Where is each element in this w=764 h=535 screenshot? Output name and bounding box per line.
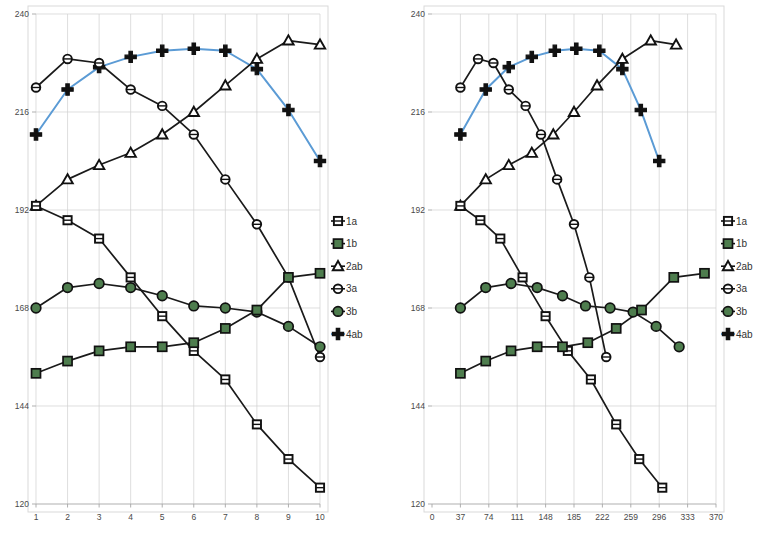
x-axis-tick-label: 8 [255,512,260,522]
marker-1b [221,324,230,333]
legend-item-2ab[interactable]: 2ab [721,261,753,272]
legend-item-3b[interactable]: 3b [721,306,748,317]
x-axis-tick-label: 1 [34,512,39,522]
legend-label-2ab: 2ab [346,261,363,272]
marker-3b [674,342,684,352]
legend-item-3a[interactable]: 3a [721,283,748,294]
y-axis-tick-label: 192 [15,205,29,215]
x-axis-tick-label: 185 [567,512,581,522]
x-axis-tick-label: 3 [97,512,102,522]
left-chart-svg: 120144168192216240123456789101a1b2ab3a3b… [0,0,382,535]
marker-1b [316,269,325,278]
marker-1b [612,324,621,333]
x-axis-tick-label: 333 [681,512,695,522]
right-chart-svg: 1201441681922162400377411114818522225929… [382,0,764,535]
x-axis-tick-label: 148 [539,512,553,522]
marker-3b [456,303,466,313]
marker-1b [669,273,678,282]
marker-3b [31,303,41,313]
marker-3b [189,301,199,311]
marker-3b [126,283,136,293]
marker-3b [63,283,73,293]
marker-1b [63,357,72,366]
marker-3b [481,283,491,293]
legend-item-1b[interactable]: 1b [721,238,748,249]
marker-1b [558,342,567,351]
y-axis-tick-label: 144 [15,401,29,411]
legend-item-1b[interactable]: 1b [331,238,358,249]
marker-1b [481,357,490,366]
legend-item-1a[interactable]: 1a [721,216,748,227]
y-axis-tick-label: 120 [15,499,29,509]
y-axis-tick-label: 192 [411,205,425,215]
left-chart-panel: 120144168192216240123456789101a1b2ab3a3b… [0,0,382,535]
legend-label-1b: 1b [346,238,358,249]
legend: 1a1b2ab3a3b4ab [331,216,363,340]
marker-3b [558,291,568,301]
marker-3b [605,303,615,313]
x-axis-tick-label: 222 [595,512,609,522]
marker-1b [32,369,41,378]
y-axis-tick-label: 168 [15,303,29,313]
y-axis-tick-label: 240 [15,9,29,19]
x-axis-tick-label: 370 [709,512,723,522]
x-axis-tick-label: 74 [484,512,494,522]
marker-1b [252,306,261,315]
legend-item-3b[interactable]: 3b [331,306,358,317]
marker-3b [157,291,167,301]
legend-label-3a: 3a [736,283,748,294]
legend-label-2ab: 2ab [736,261,753,272]
legend: 1a1b2ab3a3b4ab [721,216,753,340]
right-chart-panel: 1201441681922162400377411114818522225929… [382,0,764,535]
marker-1b [583,338,592,347]
x-axis-tick-label: 0 [430,512,435,522]
legend-label-1a: 1a [346,216,358,227]
x-axis-tick-label: 111 [511,512,524,522]
x-axis-tick-label: 2 [65,512,70,522]
y-axis-tick-label: 216 [411,107,425,117]
legend-label-3a: 3a [346,283,358,294]
marker-1b [637,306,646,315]
y-axis-tick-label: 120 [411,499,425,509]
marker-1b [95,346,104,355]
marker-1b [533,342,542,351]
chart-frame [28,6,328,512]
legend-item-4ab[interactable]: 4ab [331,328,363,339]
marker-legend-4ab [332,328,343,339]
marker-3b [94,279,104,289]
legend-item-3a[interactable]: 3a [331,283,358,294]
x-axis-tick-label: 4 [128,512,133,522]
y-axis-tick-label: 216 [15,107,29,117]
marker-legend-3b [333,307,343,317]
marker-3b [315,342,325,352]
marker-1b [189,338,198,347]
x-axis-tick-label: 6 [191,512,196,522]
marker-3b [532,283,542,293]
marker-legend-1b [334,239,343,248]
legend-label-3b: 3b [346,306,358,317]
legend-label-1b: 1b [736,238,748,249]
legend-label-4ab: 4ab [346,329,363,340]
x-axis-tick-label: 37 [456,512,466,522]
marker-3b [581,301,591,311]
figure-container: 120144168192216240123456789101a1b2ab3a3b… [0,0,764,535]
marker-legend-3b [723,307,733,317]
x-axis-tick-label: 259 [624,512,638,522]
legend-item-1a[interactable]: 1a [331,216,358,227]
marker-3b [284,322,294,332]
marker-1b [126,342,135,351]
marker-1b [456,369,465,378]
marker-3b [506,279,516,289]
x-axis-tick-label: 5 [160,512,165,522]
legend-item-2ab[interactable]: 2ab [331,261,363,272]
x-axis-tick-label: 9 [286,512,291,522]
x-axis-tick-label: 10 [315,512,325,522]
y-axis-tick-label: 168 [411,303,425,313]
legend-item-4ab[interactable]: 4ab [721,328,753,339]
marker-1b [700,269,709,278]
marker-3b [221,303,231,313]
marker-3b [651,322,661,332]
marker-1b [158,342,167,351]
marker-legend-1b [724,239,733,248]
legend-label-4ab: 4ab [736,329,753,340]
